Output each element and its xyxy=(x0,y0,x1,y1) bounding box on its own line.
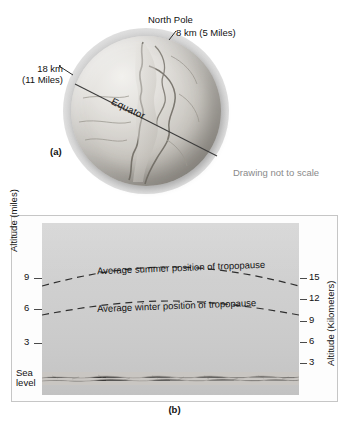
north-pole-label: North Pole xyxy=(148,14,193,25)
left-tick-label-9: 9 xyxy=(24,271,29,282)
right-tick-15 xyxy=(300,278,307,279)
panel-b-tropopause-chart: Average summer position of tropopause Av… xyxy=(11,215,338,402)
right-tick-label-3: 3 xyxy=(309,356,314,367)
equatorial-thickness-line2: (11 Miles) xyxy=(22,74,63,85)
sea-level-line2: level xyxy=(16,378,36,388)
right-tick-3 xyxy=(300,363,307,364)
panel-a-caption: (a) xyxy=(50,146,62,157)
right-tick-9 xyxy=(300,321,307,322)
chart-plot-area: Average summer position of tropopause Av… xyxy=(42,223,299,395)
panel-a-globe: North Pole 8 km (5 Miles) 18 km (11 Mile… xyxy=(0,0,349,205)
not-to-scale-note: Drawing not to scale xyxy=(233,167,319,178)
right-tick-6 xyxy=(300,342,307,343)
right-tick-label-6: 6 xyxy=(309,335,314,346)
right-tick-label-12: 12 xyxy=(309,292,320,303)
equatorial-thickness-leader-icon xyxy=(59,64,77,78)
left-tick-label-3: 3 xyxy=(24,336,29,347)
left-tick-9 xyxy=(34,278,42,279)
right-tick-12 xyxy=(300,299,307,300)
right-tick-label-15: 15 xyxy=(309,271,320,282)
left-tick-3 xyxy=(34,343,42,344)
panel-b-caption: (b) xyxy=(0,404,349,415)
left-tick-label-6: 6 xyxy=(24,302,29,313)
right-tick-label-9: 9 xyxy=(309,314,314,325)
cut-off-body-text xyxy=(0,425,349,431)
sea-level-label: Sea level xyxy=(16,368,36,388)
right-axis-title: Altitude (Kilometers) xyxy=(325,280,336,366)
left-axis-title: Altitude (miles) xyxy=(8,189,19,252)
equatorial-thickness-label: 18 km (11 Miles) xyxy=(22,63,63,85)
left-tick-6 xyxy=(34,309,42,310)
polar-thickness-label: 8 km (5 Miles) xyxy=(176,27,236,38)
